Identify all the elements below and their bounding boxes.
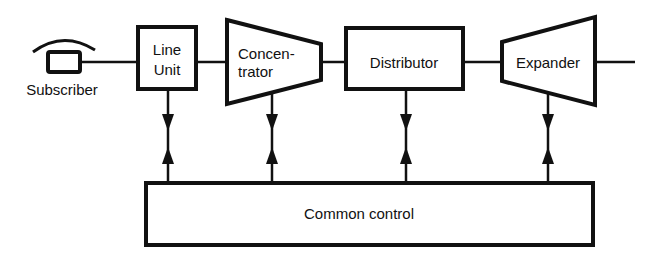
arrow-up-icon: [266, 147, 278, 164]
arrow-down-icon: [400, 114, 412, 131]
line-unit-block: [138, 27, 196, 89]
arrow-down-icon: [266, 114, 278, 131]
control-link-line-unit: [162, 89, 174, 183]
line-unit-label-2: Unit: [154, 61, 182, 78]
expander-label: Expander: [516, 54, 580, 71]
subscriber-telephone-icon: [48, 52, 80, 72]
control-link-concentrator: [266, 93, 278, 183]
concentrator-label-1: Concen-: [238, 45, 295, 62]
control-link-distributor: [400, 89, 412, 183]
common-control-label: Common control: [304, 205, 414, 222]
arrow-up-icon: [542, 147, 554, 164]
distributor-label: Distributor: [370, 54, 438, 71]
arrow-up-icon: [162, 147, 174, 164]
concentrator-block: [227, 20, 321, 104]
concentrator-label-2: trator: [238, 63, 273, 80]
subscriber-label: Subscriber: [26, 81, 98, 98]
arrow-up-icon: [400, 147, 412, 164]
arrow-down-icon: [542, 114, 554, 131]
line-unit-label-1: Line: [153, 41, 181, 58]
arrow-down-icon: [162, 114, 174, 131]
control-link-expander: [542, 93, 554, 183]
switching-system-diagram: Subscriber Line Unit Concen- trator Dist…: [0, 0, 657, 261]
